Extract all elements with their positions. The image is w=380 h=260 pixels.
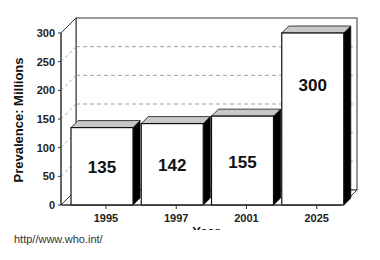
bar-chart: 050100150200250300 135142155300 19951997… (0, 0, 380, 230)
bar-2001: 155 (212, 109, 281, 205)
bar-value-label: 155 (228, 153, 256, 172)
x-tick-label: 2025 (305, 212, 329, 224)
bar-2025: 300 (282, 26, 351, 205)
y-tick-label: 150 (37, 113, 55, 125)
bar-value-label: 135 (88, 158, 116, 177)
bar-top (71, 121, 140, 128)
y-tick-label: 50 (43, 170, 55, 182)
bar-top (212, 109, 281, 116)
bar-1995: 135 (71, 121, 140, 205)
source-url: http//www.who.int/ (14, 233, 103, 245)
bar-side (344, 26, 351, 205)
x-axis-title: Year (192, 224, 219, 230)
bar-value-label: 142 (158, 156, 186, 175)
bar-side (274, 109, 281, 205)
y-axis-title: Prevalence: Millions (11, 58, 26, 183)
x-tick-label: 2001 (234, 212, 258, 224)
bar-top (141, 117, 210, 124)
y-axis: 050100150200250300 (37, 27, 61, 211)
bar-side (203, 117, 210, 205)
y-tick-label: 100 (37, 142, 55, 154)
x-axis: 1995199720012025 (61, 205, 342, 224)
bar-front (282, 33, 344, 205)
x-tick-label: 1995 (94, 212, 118, 224)
y-tick-label: 300 (37, 27, 55, 39)
x-tick-label: 1997 (164, 212, 188, 224)
bar-side (133, 121, 140, 205)
bar-top (282, 26, 351, 33)
bar-value-label: 300 (299, 76, 327, 95)
y-tick-label: 0 (49, 199, 55, 211)
y-tick-label: 200 (37, 84, 55, 96)
y-tick-label: 250 (37, 56, 55, 68)
bar-1997: 142 (141, 117, 210, 205)
